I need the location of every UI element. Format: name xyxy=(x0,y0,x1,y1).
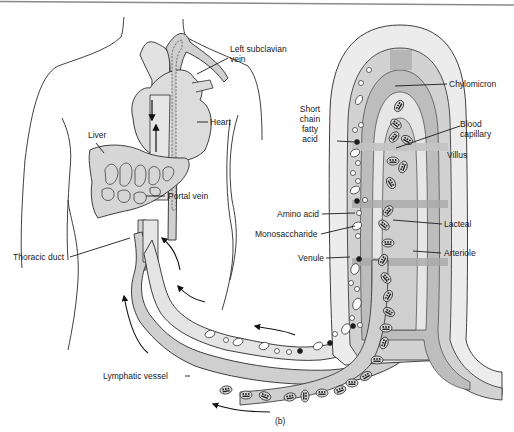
label-portal-vein: Portal vein xyxy=(168,191,208,201)
label-lymphatic-vessel: Lymphatic vessel xyxy=(103,371,168,381)
label-monosaccharide: Monosaccharide xyxy=(255,229,317,239)
top-rule xyxy=(0,2,514,6)
label-short-chain-fatty-acid: Short chain fatty acid xyxy=(290,104,330,144)
arrow-portal-flow-1-icon xyxy=(162,238,180,270)
label-heart: Heart xyxy=(210,117,231,127)
label-chylomicron: Chylomicron xyxy=(449,79,496,89)
label-blood-capillary: Blood capillary xyxy=(460,119,491,139)
label-lacteal: Lacteal xyxy=(444,219,471,229)
label-thoracic-duct: Thoracic duct xyxy=(13,252,64,262)
label-amino-acid: Amino acid xyxy=(277,209,319,219)
nutrient-absorption-diagram: Left subclavian vein Heart Liver Portal … xyxy=(0,0,514,432)
label-villus: Villus xyxy=(447,150,467,160)
diagram-canvas xyxy=(0,0,514,432)
label-liver: Liver xyxy=(88,130,106,140)
panel-label: (b) xyxy=(275,416,285,426)
label-venule: Venule xyxy=(298,253,324,263)
label-left-subclavian-vein: Left subclavian vein xyxy=(230,44,287,64)
arrow-portal-flow-3-icon xyxy=(255,326,295,335)
arrow-portal-flow-2-icon xyxy=(178,286,205,302)
label-arteriole: Arteriole xyxy=(444,248,476,258)
